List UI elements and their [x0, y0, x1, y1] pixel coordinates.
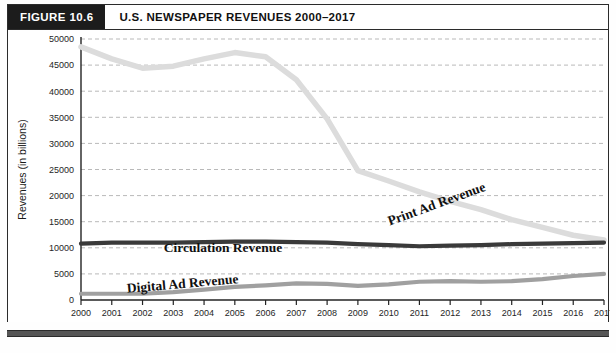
x-tick-label: 2009 — [348, 308, 368, 318]
x-tick-label: 2000 — [71, 308, 91, 318]
y-axis-title: Revenues (in billions) — [16, 119, 28, 219]
x-tick-label: 2012 — [440, 308, 460, 318]
x-tick-label: 2006 — [256, 308, 276, 318]
x-tick-label: 2002 — [133, 308, 153, 318]
x-tick-label: 2007 — [286, 308, 306, 318]
x-tick-label: 2004 — [194, 308, 214, 318]
y-tick-label: 25000 — [49, 165, 74, 175]
y-tick-label: 35000 — [49, 113, 74, 123]
x-tick-label: 2017 — [594, 308, 610, 318]
axes-group — [81, 37, 604, 305]
series-label-circulation-revenue: Circulation Revenue — [164, 240, 283, 255]
x-tick-label: 2010 — [379, 308, 399, 318]
y-tick-label: 20000 — [49, 191, 74, 201]
figure-number-badge: FIGURE 10.6 — [8, 5, 105, 29]
figure-header: FIGURE 10.6 U.S. NEWSPAPER REVENUES 2000… — [7, 4, 609, 30]
y-tick-label: 50000 — [49, 34, 74, 44]
footer-note — [10, 341, 606, 352]
gridlines-group — [81, 39, 604, 274]
tick-labels-group: 0500010000150002000025000300003500040000… — [49, 34, 610, 318]
x-tick-label: 2011 — [410, 308, 429, 318]
footer-divider — [7, 330, 609, 337]
y-tick-label: 15000 — [49, 217, 74, 227]
axis-title-group: Revenues (in billions) — [16, 119, 28, 219]
page-title: U.S. NEWSPAPER REVENUES 2000–2017 — [105, 5, 355, 29]
series-group — [81, 47, 604, 294]
x-tick-label: 2008 — [317, 308, 337, 318]
series-line-circulation-revenue — [81, 242, 604, 247]
line-chart: 0500010000150002000025000300003500040000… — [8, 30, 610, 322]
y-tick-label: 10000 — [49, 243, 74, 253]
y-tick-label: 45000 — [49, 60, 74, 70]
figure-card: FIGURE 10.6 U.S. NEWSPAPER REVENUES 2000… — [0, 0, 616, 353]
y-tick-label: 30000 — [49, 139, 74, 149]
chart-plot-container: 0500010000150002000025000300003500040000… — [7, 30, 609, 322]
y-tick-label: 5000 — [54, 269, 74, 279]
x-tick-label: 2014 — [502, 308, 522, 318]
x-tick-label: 2015 — [532, 308, 552, 318]
series-labels-group: Print Ad RevenueCirculation RevenueDigit… — [126, 179, 487, 296]
x-tick-label: 2005 — [225, 308, 245, 318]
x-tick-label: 2013 — [471, 308, 491, 318]
y-tick-label: 0 — [69, 295, 74, 305]
x-tick-label: 2001 — [102, 308, 122, 318]
x-tick-label: 2003 — [163, 308, 183, 318]
y-tick-label: 40000 — [49, 87, 74, 97]
x-tick-label: 2016 — [563, 308, 583, 318]
